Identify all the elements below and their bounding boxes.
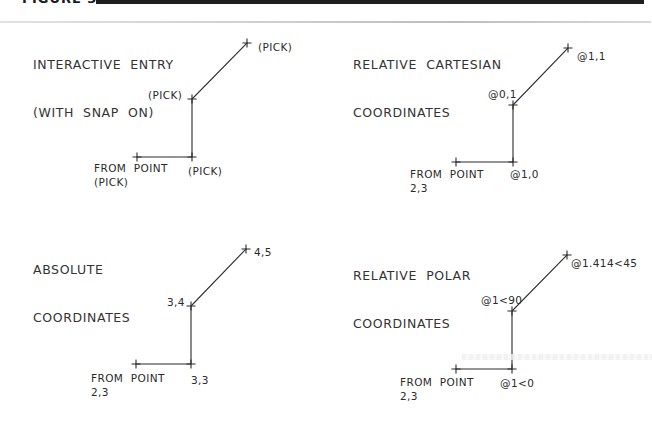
corner-point-marker-icon [188, 153, 196, 161]
from-point-label: FROM POINT [91, 372, 165, 385]
from-point-label: FROM POINT [410, 168, 484, 181]
start-point-marker-icon [452, 365, 460, 373]
end-point-label: @1.414<45 [571, 257, 637, 270]
start-point-marker-icon [452, 158, 460, 166]
end-point-label: (PICK) [258, 41, 292, 54]
from-point-label: FROM POINT [94, 162, 168, 175]
panel-title-line-2: COORDINATES [353, 316, 471, 332]
mid-point-label: 3,4 [167, 296, 185, 309]
corner-point-marker-icon [187, 360, 195, 368]
panel-title-line-1: INTERACTIVE ENTRY [33, 57, 174, 73]
print-bleed-through-artifact [462, 354, 652, 360]
panel-title-line-1: ABSOLUTE [33, 262, 130, 278]
end-point-label: 4,5 [254, 246, 272, 259]
panel-title: RELATIVE CARTESIAN COORDINATES [353, 25, 502, 153]
end-point-label: @1,1 [577, 50, 606, 63]
start-point-marker-icon [132, 360, 140, 368]
mid-point-label: (PICK) [148, 89, 182, 102]
panel-title-line-2: COORDINATES [33, 310, 130, 326]
panel-title: ABSOLUTE COORDINATES [33, 230, 130, 358]
panel-title-line-1: RELATIVE POLAR [353, 268, 471, 284]
corner-point-label: @1<0 [500, 377, 534, 390]
mid-point-label: @0,1 [488, 88, 517, 101]
corner-point-label: @1,0 [510, 168, 539, 181]
start-point-marker-icon [133, 153, 141, 161]
panel-title-line-2: (WITH SNAP ON) [33, 105, 174, 121]
from-point-value: (PICK) [94, 176, 128, 189]
corner-point-label: 3,3 [191, 374, 209, 387]
from-point-value: 2,3 [400, 390, 418, 403]
from-point-value: 2,3 [91, 386, 109, 399]
corner-point-marker-icon [509, 158, 517, 166]
mid-point-label: @1<90 [481, 294, 522, 307]
from-point-value: 2,3 [410, 182, 428, 195]
panel-absolute-polyline [132, 245, 250, 368]
panel-title: RELATIVE POLAR COORDINATES [353, 236, 471, 364]
corner-point-marker-icon [508, 365, 516, 373]
panel-title-line-1: RELATIVE CARTESIAN [353, 57, 502, 73]
from-point-label: FROM POINT [400, 376, 474, 389]
panel-title-line-2: COORDINATES [353, 105, 502, 121]
corner-point-label: (PICK) [188, 165, 222, 178]
